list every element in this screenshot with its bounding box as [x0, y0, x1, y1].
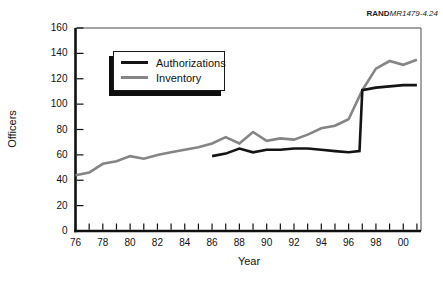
y-tick-label: 60 [38, 150, 68, 160]
y-tick-label: 80 [38, 125, 68, 135]
legend-box: AuthorizationsInventory [113, 51, 225, 91]
x-tick-label: 92 [283, 238, 305, 248]
x-tick-label: 88 [228, 238, 250, 248]
legend-label: Authorizations [156, 57, 226, 69]
x-tick-label: 00 [392, 238, 414, 248]
x-axis-title: Year [218, 255, 280, 267]
x-tick-label: 78 [92, 238, 114, 248]
y-axis-title: Officers [6, 89, 20, 169]
x-tick-label: 98 [365, 238, 387, 248]
x-tick-label: 94 [310, 238, 332, 248]
y-tick-label: 160 [38, 23, 68, 33]
chart-figure: RANDMR1479-4.24 020406080100120140160767… [0, 0, 443, 282]
legend-line-swatch [121, 61, 148, 64]
y-tick-label: 120 [38, 74, 68, 84]
y-tick-label: 0 [38, 226, 68, 236]
y-tick-label: 40 [38, 175, 68, 185]
legend-label: Inventory [156, 72, 201, 84]
x-tick-label: 90 [256, 238, 278, 248]
y-tick-label: 100 [38, 99, 68, 109]
legend-item-inventory: Inventory [121, 70, 224, 85]
x-tick-label: 84 [174, 238, 196, 248]
x-tick-label: 80 [119, 238, 141, 248]
y-tick-label: 20 [38, 201, 68, 211]
legend-line-swatch [121, 76, 148, 79]
x-tick-label: 96 [338, 238, 360, 248]
x-tick-label: 82 [146, 238, 168, 248]
y-tick-label: 140 [38, 48, 68, 58]
x-tick-label: 76 [65, 238, 87, 248]
x-tick-label: 86 [201, 238, 223, 248]
legend-item-authorizations: Authorizations [121, 55, 224, 70]
series-line-authorizations [212, 85, 417, 156]
